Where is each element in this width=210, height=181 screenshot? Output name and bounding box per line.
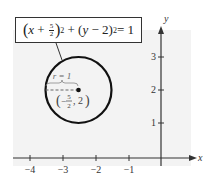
- y-tick-label: 1: [151, 117, 156, 128]
- x-tick-label: −3: [58, 164, 69, 175]
- svg-text:2: 2: [78, 95, 83, 106]
- radius-label: r = 1: [53, 71, 72, 81]
- svg-text:,: ,: [73, 95, 76, 106]
- x-tick-label: −1: [124, 164, 135, 175]
- svg-text:2: 2: [67, 102, 71, 110]
- plot-background: [13, 30, 191, 166]
- svg-text:5: 5: [67, 93, 71, 101]
- svg-text:−: −: [61, 96, 66, 106]
- svg-text:): ): [85, 93, 90, 109]
- y-tick-label: 2: [151, 84, 156, 95]
- x-tick-label: −2: [91, 164, 102, 175]
- x-axis-arrow-icon: [189, 155, 197, 161]
- y-tick-label: 3: [151, 51, 156, 62]
- x-axis-label: x: [197, 152, 203, 163]
- fraction: 5 2: [49, 23, 54, 38]
- equation-callout: ( x + 5 2 ) 2 + ( y − 2) 2 = 1: [15, 17, 142, 43]
- x-tick-label: −4: [25, 164, 36, 175]
- y-axis-label: y: [163, 13, 169, 24]
- center-point: [76, 88, 81, 93]
